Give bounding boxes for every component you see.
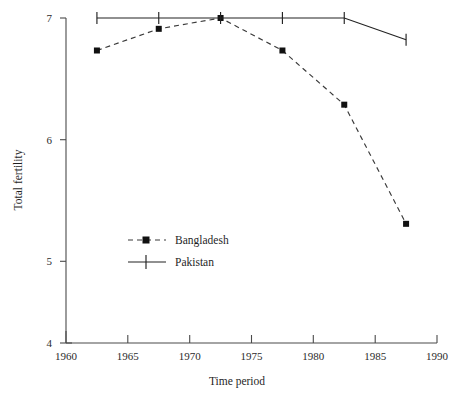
series-layer <box>94 12 409 227</box>
x-tick-label-1980: 1980 <box>302 350 325 362</box>
series-bangladesh <box>94 15 409 227</box>
x-tick-label-1960: 1960 <box>55 350 78 362</box>
x-tick-label-1970: 1970 <box>179 350 202 362</box>
legend-swatch-bangladesh-marker <box>143 237 150 244</box>
x-tick-label-1985: 1985 <box>364 350 387 362</box>
chart-figure: 7 6 5 4 1960 1965 1970 1975 1980 1985 19… <box>0 0 468 403</box>
series-pakistan <box>97 12 406 46</box>
data-point-bangladesh-1962.5[interactable] <box>94 48 100 54</box>
x-tick-label-1975: 1975 <box>241 350 264 362</box>
data-point-bangladesh-1977.5[interactable] <box>279 48 285 54</box>
legend-item-bangladesh[interactable]: Bangladesh <box>128 234 229 247</box>
legend-label-pakistan: Pakistan <box>175 256 214 268</box>
x-axis-ticks <box>66 331 437 343</box>
series-line-bangladesh <box>97 18 406 224</box>
y-tick-label-6: 6 <box>47 134 53 146</box>
line-chart: 7 6 5 4 1960 1965 1970 1975 1980 1985 19… <box>0 0 468 403</box>
chart-legend: Bangladesh Pakistan <box>128 234 229 269</box>
series-line-pakistan <box>97 18 406 40</box>
x-axis-title: Time period <box>209 375 265 388</box>
data-point-bangladesh-1967.5[interactable] <box>156 26 162 32</box>
x-tick-label-1965: 1965 <box>117 350 140 362</box>
y-tick-label-7: 7 <box>47 12 53 24</box>
y-tick-label-4: 4 <box>47 337 53 349</box>
x-tick-label-1990: 1990 <box>426 350 449 362</box>
data-point-bangladesh-1982.5[interactable] <box>341 102 347 108</box>
legend-item-pakistan[interactable]: Pakistan <box>128 255 214 269</box>
y-axis-title: Total fertility <box>12 149 25 210</box>
y-tick-label-5: 5 <box>47 255 53 267</box>
data-point-bangladesh-1987.5[interactable] <box>403 221 409 227</box>
legend-label-bangladesh: Bangladesh <box>175 234 229 247</box>
